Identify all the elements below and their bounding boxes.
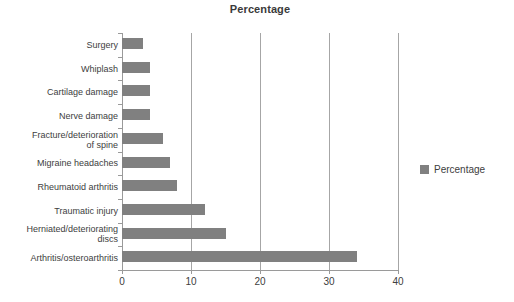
y-axis-tick (118, 270, 122, 271)
chart-title: Percentage (120, 3, 400, 15)
bar-chart-figure: Percentage SurgeryWhiplashCartilage dama… (0, 0, 514, 302)
category-label: Arthritis/osteroarthritis (2, 253, 118, 263)
y-axis-tick (118, 33, 122, 34)
bar-row (122, 246, 398, 270)
category-label: Nerve damage (2, 111, 118, 121)
bar (122, 62, 150, 73)
x-axis-tick (191, 270, 192, 274)
plot-area (122, 33, 398, 270)
y-axis-tick (118, 104, 122, 105)
category-label: Fracture/deterioration of spine (2, 130, 118, 150)
category-label: Traumatic injury (2, 206, 118, 216)
category-label: Surgery (2, 40, 118, 50)
bar-row (122, 104, 398, 128)
category-label: Whiplash (2, 64, 118, 74)
bar (122, 133, 163, 144)
bar (122, 85, 150, 96)
category-label: Cartilage damage (2, 87, 118, 97)
bar-row (122, 152, 398, 176)
bar-row (122, 128, 398, 152)
bar (122, 157, 170, 168)
x-axis-tick (329, 270, 330, 274)
bar-row (122, 80, 398, 104)
bar-row (122, 33, 398, 57)
bar (122, 228, 226, 239)
x-axis-tick-label: 20 (240, 276, 280, 287)
bar (122, 251, 357, 262)
category-label: Herniated/deteriorating discs (2, 224, 118, 244)
x-axis-tick (398, 270, 399, 274)
x-axis-tick-label: 10 (171, 276, 211, 287)
bar (122, 38, 143, 49)
bar-row (122, 57, 398, 81)
bar-row (122, 223, 398, 247)
bar (122, 180, 177, 191)
category-label: Rheumatoid arthritis (2, 182, 118, 192)
gridline (398, 33, 399, 270)
x-axis-tick-label: 40 (378, 276, 418, 287)
y-axis-tick (118, 246, 122, 247)
y-axis-tick (118, 128, 122, 129)
y-axis-tick (118, 199, 122, 200)
figure-caption (30, 292, 490, 302)
bar (122, 204, 205, 215)
x-axis-tick (260, 270, 261, 274)
y-axis-tick (118, 152, 122, 153)
bar (122, 109, 150, 120)
y-axis-tick (118, 175, 122, 176)
legend-label: Percentage (434, 164, 485, 175)
bar-row (122, 199, 398, 223)
legend-swatch-icon (420, 165, 429, 174)
y-axis-tick (118, 57, 122, 58)
y-axis-tick (118, 223, 122, 224)
bar-row (122, 175, 398, 199)
category-label: Migraine headaches (2, 158, 118, 168)
x-axis-tick (122, 270, 123, 274)
y-axis-category-labels: SurgeryWhiplashCartilage damageNerve dam… (0, 33, 118, 270)
x-axis-tick-label: 0 (102, 276, 142, 287)
chart-legend: Percentage (420, 164, 485, 175)
y-axis-tick (118, 80, 122, 81)
x-axis-tick-label: 30 (309, 276, 349, 287)
